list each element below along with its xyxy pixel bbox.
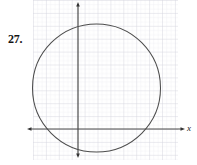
- y-axis: [76, 2, 80, 158]
- y-axis-bottom-arrowhead: [76, 154, 80, 159]
- circle-curve: [33, 24, 161, 152]
- x-axis-label: x: [187, 123, 191, 133]
- exercise-figure: 27.: [0, 0, 197, 165]
- y-axis-top-arrowhead: [76, 2, 80, 7]
- x-axis-right-arrowhead: [181, 127, 186, 131]
- x-axis: [27, 127, 185, 131]
- x-axis-left-arrowhead: [27, 127, 32, 131]
- graph-paper-area: [33, 0, 178, 160]
- axes-and-curve: [0, 0, 197, 165]
